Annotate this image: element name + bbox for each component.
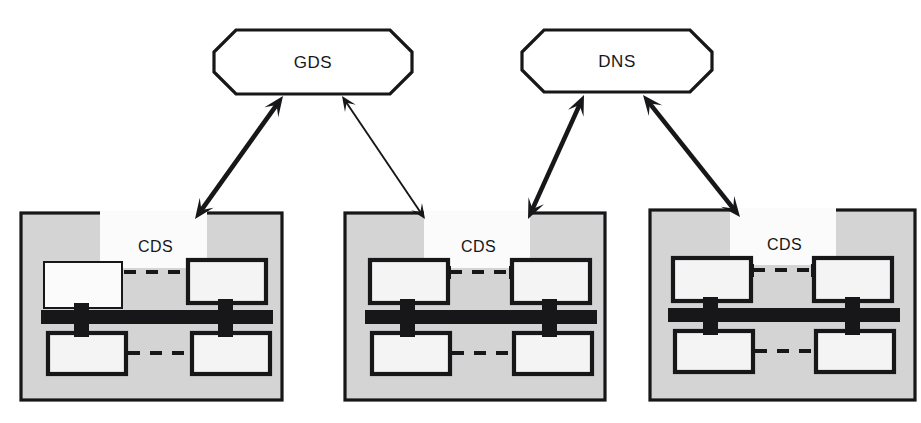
connector-shaft — [346, 102, 421, 213]
cds-label-text: CDS — [138, 238, 173, 255]
arrow-head-source — [342, 96, 356, 112]
architecture-diagram: CDSCDSCDS GDSDNS — [0, 0, 921, 423]
cds-node-top-left[interactable] — [673, 258, 751, 301]
cds-node-top-right[interactable] — [512, 260, 590, 303]
cds-box[interactable]: CDS — [21, 211, 282, 400]
cds-bus-bar — [41, 310, 273, 324]
cds-node-bottom-right[interactable] — [816, 331, 894, 372]
connector-shaft — [201, 104, 277, 211]
cds-node-bottom-right[interactable] — [514, 333, 592, 374]
gds-label: GDS — [294, 53, 333, 72]
cds-node-bottom-left[interactable] — [372, 333, 450, 374]
top-node-dns[interactable]: DNS — [522, 30, 712, 92]
cds-label-text: CDS — [767, 236, 802, 253]
connector-shaft — [649, 103, 734, 209]
cds-bus-bar — [668, 308, 900, 322]
cds-box[interactable]: CDS — [345, 211, 605, 400]
dns-label: DNS — [598, 52, 636, 71]
cds-node-bottom-right[interactable] — [192, 333, 270, 374]
cds-label-text: CDS — [461, 238, 496, 255]
cds-node-top-left[interactable] — [370, 260, 448, 303]
cds-box[interactable]: CDS — [650, 208, 915, 400]
connector-group — [195, 95, 740, 219]
connector-dns-cds3 — [643, 95, 740, 217]
cds-node-bottom-left[interactable] — [675, 331, 753, 372]
cds-node-bottom-left[interactable] — [48, 333, 126, 374]
top-node-group: GDSDNS — [214, 30, 712, 94]
connector-shaft — [532, 104, 580, 210]
top-node-gds[interactable]: GDS — [214, 30, 412, 94]
connector-gds-cds2 — [342, 96, 425, 219]
cds-box-group: CDSCDSCDS — [21, 208, 915, 400]
cds-bus-bar — [365, 310, 597, 324]
diagram-canvas: CDSCDSCDS GDSDNS — [0, 0, 921, 423]
cds-node-top-right[interactable] — [188, 260, 266, 303]
cds-node-top-left[interactable] — [44, 262, 122, 308]
cds-node-top-right[interactable] — [814, 258, 892, 301]
connector-dns-cds2 — [528, 95, 584, 219]
connector-gds-cds1 — [195, 96, 283, 219]
